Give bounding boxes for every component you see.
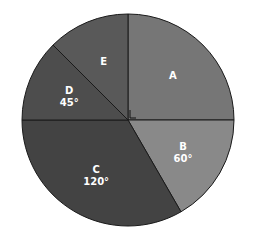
slice-angle-b: 60° <box>174 153 193 164</box>
slice-label-b: B <box>179 141 187 152</box>
pie-slice-a <box>128 14 234 120</box>
slice-angle-c: 120° <box>83 176 109 187</box>
slice-label-d: D <box>65 85 73 96</box>
slice-label-a: A <box>169 70 177 81</box>
slice-angle-d: 45° <box>60 97 79 108</box>
pie-chart: AB60°C120°D45°E <box>0 0 256 239</box>
slice-label-e: E <box>100 56 107 67</box>
slice-label-c: C <box>93 164 100 175</box>
